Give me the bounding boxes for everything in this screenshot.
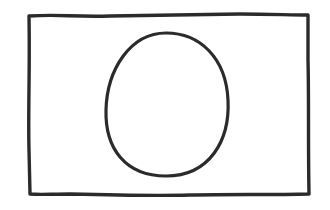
rectangle-frame-shape bbox=[29, 14, 309, 195]
egg-oval-shape bbox=[106, 33, 228, 176]
sketch-canvas bbox=[0, 0, 330, 210]
